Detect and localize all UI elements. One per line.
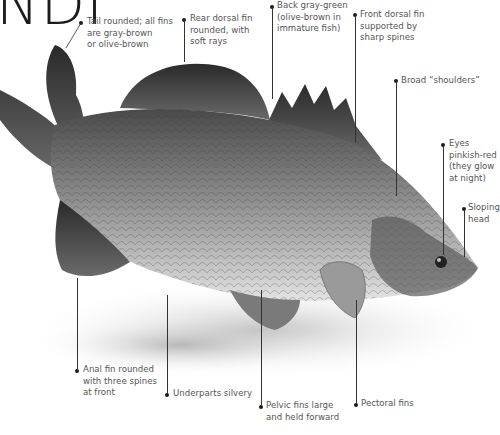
annotation-dot-anal-fin — [75, 369, 79, 373]
annotation-anal-fin: Anal fin rounded with three spines at fr… — [83, 364, 157, 399]
annotation-tail: Tail rounded; all fins are gray-brown or… — [87, 16, 173, 51]
annotation-rear-dorsal: Rear dorsal fin rounded, with soft rays — [190, 13, 252, 48]
annotation-dot-underparts — [165, 393, 169, 397]
annotation-dot-pectoral — [354, 403, 358, 407]
annotation-underparts: Underparts silvery — [173, 388, 252, 400]
annotation-front-dorsal: Front dorsal fin supported by sharp spin… — [360, 9, 424, 44]
annotation-pelvic: Pelvic fins large and held forward — [266, 400, 339, 423]
annotation-head: Sloping head — [468, 202, 500, 225]
annotation-eyes: Eyes pinkish-red (they glow at night) — [449, 138, 497, 184]
annotation-pectoral: Pectoral fins — [361, 398, 414, 410]
annotation-shoulders: Broad “shoulders” — [401, 75, 480, 87]
annotation-dot-pelvic — [259, 405, 263, 409]
annotation-back: Back gray-green (olive-brown in immature… — [277, 0, 348, 35]
